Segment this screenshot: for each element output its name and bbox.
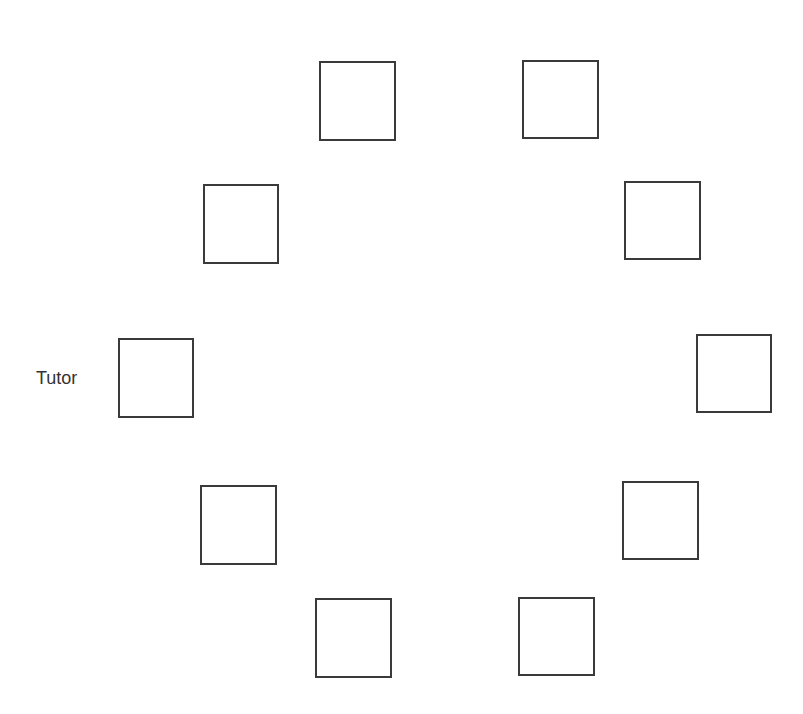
seat-box-lower-right (622, 481, 699, 560)
seat-box-upper-right (624, 181, 701, 260)
tutor-label: Tutor (36, 369, 77, 387)
seat-box-right (696, 334, 772, 413)
seat-box-bottom-left (315, 598, 392, 678)
seat-box-lower-left (200, 485, 277, 565)
seat-box-top-right (522, 60, 599, 139)
seat-box-upper-left (203, 184, 279, 264)
seat-box-top-left (319, 61, 396, 141)
seat-box-tutor (118, 338, 194, 418)
seat-box-bottom-right (518, 597, 595, 676)
